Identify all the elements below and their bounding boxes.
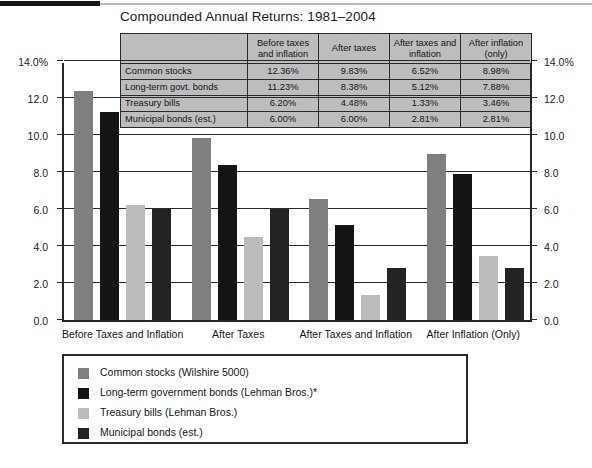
axis-tick-left [57, 282, 63, 283]
table-column-header: Before taxes and inflation [248, 34, 319, 64]
y-axis-tick-label: 4.0 [0, 241, 48, 253]
legend-swatch [78, 428, 89, 439]
axis-tick-right [531, 60, 537, 61]
top-rule-light [100, 3, 592, 5]
gridline [64, 60, 530, 61]
bar [309, 199, 328, 320]
gridline [64, 97, 530, 98]
axis-tick-right [531, 134, 537, 135]
y-axis-tick-label: 12.0 [0, 93, 48, 105]
y-axis-tick-label: 8.0 [544, 167, 592, 179]
plot-area [62, 63, 532, 322]
table-column-header: After taxes [319, 34, 390, 64]
legend-swatch [78, 368, 89, 379]
axis-tick-right [531, 282, 537, 283]
y-axis-tick-label: 2.0 [0, 278, 48, 290]
legend-label: Treasury bills (Lehman Bros.) [100, 406, 237, 418]
y-axis-tick-label: 4.0 [544, 241, 592, 253]
y-axis-tick-label: 6.0 [0, 204, 48, 216]
y-axis-tick-label: 14.0% [544, 56, 592, 68]
bar [387, 268, 406, 320]
bar [335, 225, 354, 320]
bar [126, 205, 145, 320]
bar [74, 91, 93, 320]
gridline [64, 134, 530, 135]
chart-title: Compounded Annual Returns: 1981–2004 [120, 9, 376, 24]
axis-tick-left [57, 208, 63, 209]
table-header-row: Before taxes and inflation After taxes A… [121, 34, 532, 64]
table-corner-cell [121, 34, 248, 64]
table-column-header: After inflation (only) [461, 34, 532, 64]
axis-tick-left [57, 245, 63, 246]
y-axis-tick-label: 0.0 [0, 315, 48, 327]
bar [192, 138, 211, 320]
bar [218, 165, 237, 320]
axis-tick-right [531, 171, 537, 172]
y-axis-tick-label: 8.0 [0, 167, 48, 179]
legend: Common stocks (Wilshire 5000)Long-term g… [62, 354, 468, 444]
y-axis-tick-label: 6.0 [544, 204, 592, 216]
y-axis-tick-label: 12.0 [544, 93, 592, 105]
axis-tick-right [531, 245, 537, 246]
x-axis-group-label: Before Taxes and Inflation [62, 328, 180, 340]
legend-swatch [78, 388, 89, 399]
axis-tick-right [531, 97, 537, 98]
bar [152, 209, 171, 320]
bar [361, 295, 380, 320]
bar [244, 237, 263, 320]
x-axis-group-label: After Taxes and Inflation [297, 328, 415, 340]
bar [479, 256, 498, 320]
x-axis-group-label: After Inflation (Only) [415, 328, 533, 340]
bar [453, 174, 472, 320]
bar [100, 112, 119, 320]
bar [270, 209, 289, 320]
bar [505, 268, 524, 320]
y-axis-tick-label: 10.0 [544, 130, 592, 142]
legend-swatch [78, 408, 89, 419]
axis-tick-left [57, 319, 63, 320]
legend-label: Common stocks (Wilshire 5000) [100, 366, 249, 378]
y-axis-tick-label: 2.0 [544, 278, 592, 290]
axis-tick-right [531, 208, 537, 209]
top-rule-dark [0, 1, 100, 6]
table-column-header: After taxes and inflation [390, 34, 461, 64]
axis-tick-left [57, 171, 63, 172]
y-axis-tick-label: 10.0 [0, 130, 48, 142]
axis-tick-left [57, 134, 63, 135]
axis-tick-right [531, 319, 537, 320]
gridline [64, 171, 530, 172]
y-axis-tick-label: 0.0 [544, 315, 592, 327]
x-axis-group-label: After Taxes [180, 328, 298, 340]
axis-tick-left [57, 60, 63, 61]
legend-label: Long-term government bonds (Lehman Bros.… [100, 386, 317, 398]
bar [427, 154, 446, 320]
legend-label: Municipal bonds (est.) [100, 426, 203, 438]
y-axis-tick-label: 14.0% [0, 56, 48, 68]
axis-tick-left [57, 97, 63, 98]
